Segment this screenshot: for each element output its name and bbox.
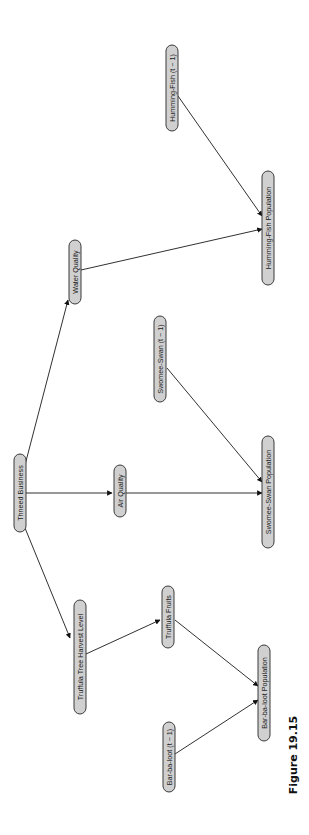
edges <box>25 96 262 754</box>
node-label: Swomee-Swan (t − 1) <box>156 324 165 393</box>
caption-text: Figure 19.15 <box>287 716 300 795</box>
node-label: Bar-ba-loot Population <box>260 657 269 729</box>
node-truffula-fruits: Truffula Fruits <box>162 586 174 648</box>
edge-water-to-humfish <box>81 229 262 270</box>
edge-harvest-to-fruits <box>86 620 160 654</box>
node-label: Humming-Fish Population <box>264 187 273 270</box>
edge-fruits-to-barbaloot <box>175 620 258 686</box>
edge-thneed-to-harvest <box>25 528 70 638</box>
node-label: Truffula Fruits <box>164 595 173 639</box>
node-water-quality: Water Quality <box>69 240 81 304</box>
node-swomee-prev: Swomee-Swan (t − 1) <box>154 316 166 402</box>
causal-diagram: Thneed Business Truffula Tree Harvest Le… <box>0 0 309 835</box>
node-label: Swomee-Swan Population <box>264 450 273 534</box>
node-humfish-prev: Humming-Fish (t − 1) <box>166 45 178 131</box>
node-truffula-harvest: Truffula Tree Harvest Level <box>74 600 86 714</box>
node-swomee-pop: Swomee-Swan Population <box>262 436 274 548</box>
node-label: Water Quality <box>71 250 80 294</box>
node-thneed-business: Thneed Business <box>14 454 26 532</box>
edge-swomee-prev-to-pop <box>167 368 262 482</box>
node-label: Bar-ba-loot (t − 1) <box>165 729 174 786</box>
node-label: Truffula Tree Harvest Level <box>76 613 85 700</box>
node-label: Air Quality <box>116 474 125 508</box>
edge-thneed-to-water <box>25 300 68 465</box>
node-humfish-pop: Humming-Fish Population <box>262 171 274 285</box>
edge-barbaloot-prev-to-pop <box>175 700 258 754</box>
figure-caption: Figure 19.15 <box>287 716 300 795</box>
node-label: Thneed Business <box>16 465 25 521</box>
node-barbaloot-pop: Bar-ba-loot Population <box>258 645 270 741</box>
node-barbaloot-prev: Bar-ba-loot (t − 1) <box>163 722 175 792</box>
node-label: Humming-Fish (t − 1) <box>168 54 177 122</box>
node-air-quality: Air Quality <box>114 465 126 517</box>
edge-humfish-prev-to-pop <box>178 96 262 216</box>
